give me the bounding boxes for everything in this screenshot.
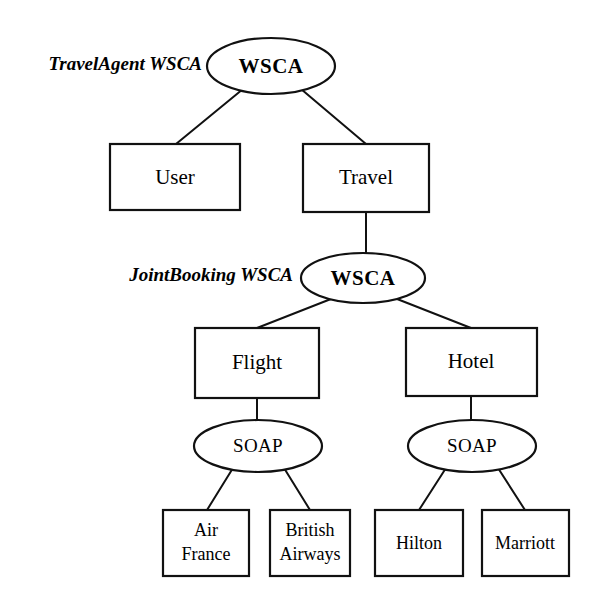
node-box-air-france[interactable]: Air France (163, 510, 249, 576)
marriott-box-label: Marriott (495, 533, 555, 553)
node-soap-hotel[interactable]: SOAP (408, 420, 536, 472)
wsca-joint-label: WSCA (330, 266, 395, 290)
diagram-canvas-container: WSCA User Travel WSCA Flight Hotel SOAP (0, 0, 595, 614)
node-wsca-top[interactable]: WSCA (207, 38, 335, 94)
edge-wsca-joint-to-hotel (392, 297, 471, 328)
user-box-label: User (155, 165, 195, 189)
wsca-top-label: WSCA (238, 54, 303, 78)
annotation-jointbooking-wsca: JointBooking WSCA (128, 264, 293, 285)
edge-soap-to-hilton (419, 468, 446, 510)
air-france-box-label-line1: Air (194, 520, 218, 540)
node-box-travel[interactable]: Travel (303, 144, 429, 212)
node-box-british-airways[interactable]: British Airways (270, 510, 350, 576)
soap-hotel-label: SOAP (447, 435, 497, 456)
edge-wsca-top-to-user (176, 89, 243, 144)
british-airways-box-label-line1: British (285, 520, 334, 540)
node-wsca-joint[interactable]: WSCA (301, 253, 425, 303)
node-box-hotel[interactable]: Hotel (406, 328, 537, 396)
hotel-box-label: Hotel (448, 349, 495, 373)
air-france-box-label-line2: France (182, 544, 231, 564)
british-airways-box-label-line2: Airways (280, 544, 341, 564)
node-box-flight[interactable]: Flight (195, 328, 319, 398)
node-box-hilton[interactable]: Hilton (375, 510, 463, 576)
annotation-travelagent-wsca: TravelAgent WSCA (48, 53, 202, 74)
flight-box-label: Flight (232, 350, 282, 374)
edge-wsca-joint-to-flight (257, 297, 336, 328)
node-box-marriott[interactable]: Marriott (482, 510, 569, 576)
soap-flight-label: SOAP (233, 435, 283, 456)
edge-soap-to-marriott (498, 468, 525, 510)
node-box-user[interactable]: User (110, 144, 240, 210)
edge-soap-to-air-france (207, 468, 233, 510)
edge-soap-to-british-airways (284, 468, 310, 510)
node-soap-flight[interactable]: SOAP (194, 420, 322, 472)
edge-wsca-top-to-travel (301, 89, 366, 144)
hilton-box-label: Hilton (396, 533, 442, 553)
travel-box-label: Travel (339, 165, 393, 189)
travel-agent-wsca-diagram: WSCA User Travel WSCA Flight Hotel SOAP (0, 0, 595, 614)
